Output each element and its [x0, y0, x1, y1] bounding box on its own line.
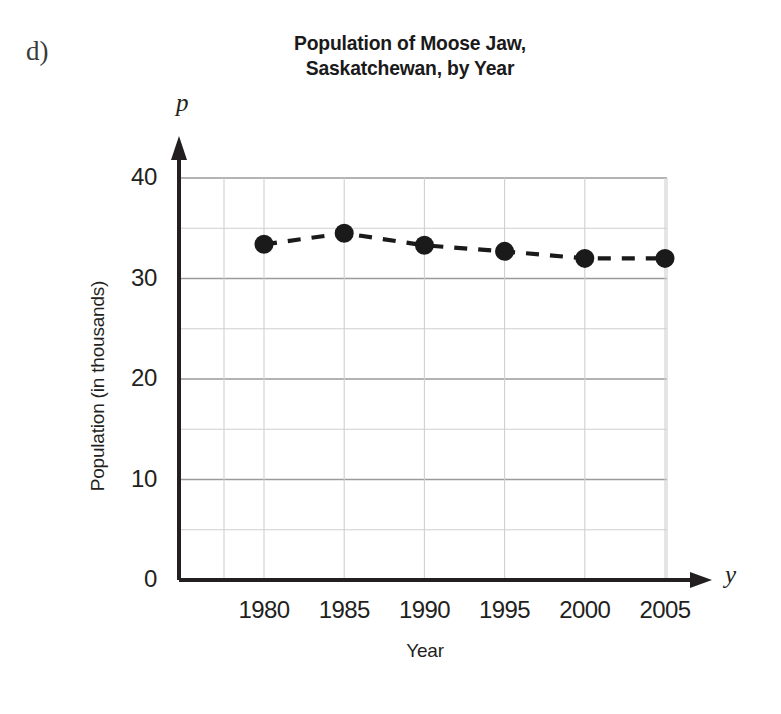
axis-lines	[171, 136, 712, 588]
data-series-markers	[255, 224, 675, 268]
data-series-line	[264, 233, 665, 258]
chart-figure: d) Population of Moose Jaw, Saskatchewan…	[0, 0, 781, 714]
plot-area	[0, 0, 781, 714]
